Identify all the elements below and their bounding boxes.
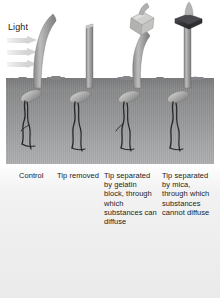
coleoptile-shoot <box>86 24 93 88</box>
seed-grain <box>19 87 43 105</box>
root-system <box>21 101 35 149</box>
caption-control: Control <box>19 171 55 180</box>
seed-grain <box>117 88 141 105</box>
specimen-mica-plate <box>162 0 220 164</box>
root-system <box>116 102 134 151</box>
coleoptile-shoot <box>34 14 56 88</box>
root-system <box>72 102 85 151</box>
caption-tip-removed: Tip removed <box>57 171 101 180</box>
coleoptile-shoot <box>184 22 191 88</box>
seed-grain <box>68 89 92 106</box>
caption-gelatin-block: Tip separated by gelatin block, through … <box>104 171 158 226</box>
coleoptile-shoot <box>133 30 150 88</box>
mica-plate <box>175 14 202 29</box>
gelatin-block <box>130 12 154 35</box>
phototropism-figure: Light <box>0 0 220 298</box>
coleoptile-tip <box>185 2 193 15</box>
root-system <box>170 102 183 151</box>
caption-mica-plate: Tip separated by mica, through which sub… <box>162 171 216 217</box>
seed-grain <box>166 89 190 106</box>
